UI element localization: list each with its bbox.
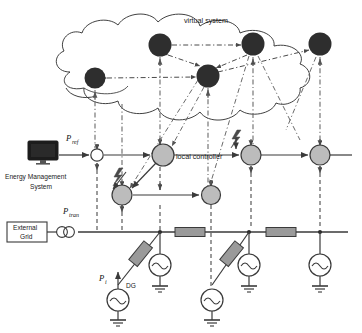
virtual-system-label: virtual system	[184, 16, 228, 25]
ems-label-line2: System	[30, 183, 52, 191]
p-ref-subscript: ref	[72, 139, 80, 145]
local-controller-3[interactable]	[310, 145, 330, 165]
generator-branch-3	[309, 232, 331, 292]
p-ref-label: P	[65, 133, 72, 143]
dg-branch-2	[201, 232, 249, 326]
local-controller-2[interactable]	[241, 145, 261, 165]
controller1-to-controller4	[132, 163, 156, 188]
ground-icon-1	[152, 286, 168, 292]
p-tran-subscript: tran	[69, 212, 79, 218]
ground-icon-2	[241, 286, 257, 292]
virtual-node-1[interactable]	[85, 68, 106, 89]
cloud-icon	[56, 14, 309, 120]
p-tran-label: P	[62, 206, 69, 216]
local-controller-4[interactable]	[112, 185, 132, 205]
p-i-label: P	[98, 273, 105, 283]
line-impedance-1	[175, 228, 205, 237]
external-grid-label-line1: External	[13, 224, 38, 231]
dg-branch-1	[107, 232, 160, 326]
lightning-bolt-icon-2	[231, 130, 241, 149]
local-controller-1[interactable]	[152, 144, 174, 166]
microgrid-architecture-diagram: virtual system	[0, 0, 362, 333]
dg-label: DG	[126, 282, 136, 289]
virtual-node-5[interactable]	[309, 33, 332, 56]
generator-branch-2	[238, 232, 260, 292]
line-impedance-2	[266, 228, 296, 237]
local-controller-5[interactable]	[202, 186, 221, 205]
diagram-canvas: virtual system	[0, 0, 362, 333]
virtual-node-4[interactable]	[242, 33, 265, 56]
ground-icon-dg1	[110, 320, 126, 326]
virtual-node-2[interactable]	[149, 34, 172, 57]
local-controller-label: local controller	[176, 152, 223, 161]
ground-icon-dg2	[204, 320, 220, 326]
ground-icon-3	[312, 286, 328, 292]
p-i-subscript: i	[105, 279, 107, 285]
virtual-node-3[interactable]	[197, 65, 220, 88]
external-grid-label-line2: Grid	[20, 233, 33, 240]
ems-label-line1: Energy Management	[5, 173, 66, 181]
transformer-icon	[57, 227, 75, 238]
monitor-icon[interactable]	[28, 141, 58, 165]
summation-node[interactable]	[91, 149, 103, 161]
